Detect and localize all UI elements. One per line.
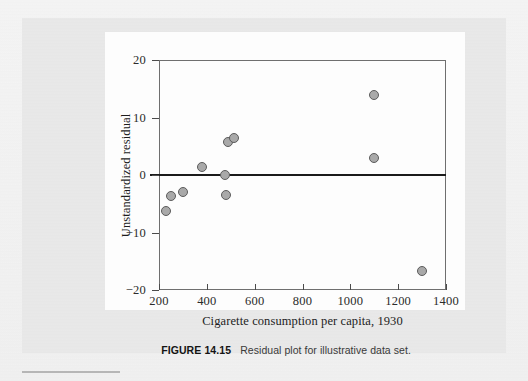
figure-block: Unstandardized residual 2004006008001000… — [22, 18, 506, 353]
x-tick-400 — [207, 284, 208, 290]
data-point — [417, 266, 427, 276]
x-tick-label-1000: 1000 — [337, 294, 363, 309]
figure-caption-text: Residual plot for illustrative data set. — [240, 344, 411, 356]
x-tick-600 — [255, 284, 256, 290]
y-tick-label--10: −10 — [126, 225, 146, 240]
zero-reference-line — [150, 174, 446, 176]
x-tick-1000 — [350, 284, 351, 290]
y-axis-title-text: Unstandardized residual — [120, 113, 135, 236]
data-point — [220, 170, 230, 180]
data-point — [178, 187, 188, 197]
data-point — [229, 133, 239, 143]
data-point — [166, 191, 176, 201]
plot-area: 200400600800100012001400 20100−10−20 — [159, 60, 446, 290]
x-tick-label-400: 400 — [197, 294, 216, 309]
y-tick-0 — [152, 175, 159, 176]
data-point — [221, 190, 231, 200]
x-tick-1400 — [446, 284, 447, 290]
data-point — [369, 153, 379, 163]
x-axis-title: Cigarette consumption per capita, 1930 — [159, 314, 446, 329]
axis-top — [159, 60, 446, 61]
y-tick-label--20: −20 — [126, 283, 146, 298]
y-tick-label-10: 10 — [133, 110, 146, 125]
y-tick-label-20: 20 — [133, 53, 146, 68]
x-tick-200 — [159, 284, 160, 290]
chart-panel: Unstandardized residual 2004006008001000… — [105, 32, 465, 310]
x-tick-label-1400: 1400 — [433, 294, 459, 309]
data-point — [369, 90, 379, 100]
x-tick-label-800: 800 — [293, 294, 312, 309]
footer-rule — [22, 371, 120, 373]
data-point — [161, 206, 171, 216]
x-tick-label-600: 600 — [245, 294, 264, 309]
figure-caption-label: FIGURE 14.15 — [161, 344, 231, 356]
y-tick-20 — [152, 60, 159, 61]
x-tick-1200 — [398, 284, 399, 290]
y-axis-title: Unstandardized residual — [119, 60, 135, 290]
x-tick-label-200: 200 — [149, 294, 168, 309]
y-tick--10 — [152, 233, 159, 234]
x-tick-label-1200: 1200 — [385, 294, 411, 309]
figure-caption: FIGURE 14.15Residual plot for illustrati… — [44, 344, 528, 356]
y-tick-10 — [152, 118, 159, 119]
y-tick-label-0: 0 — [140, 168, 146, 183]
data-point — [197, 162, 207, 172]
y-tick--20 — [152, 290, 159, 291]
x-tick-800 — [303, 284, 304, 290]
